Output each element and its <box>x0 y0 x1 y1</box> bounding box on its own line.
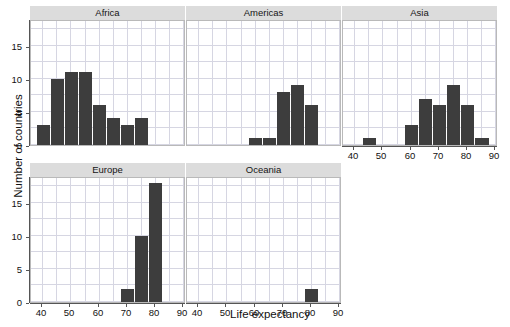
y-tick-mark <box>26 237 29 238</box>
y-tick-label: 10 <box>2 231 22 242</box>
x-axis-line <box>186 303 341 304</box>
histogram-bar <box>263 138 276 145</box>
x-tick-label: 90 <box>328 307 348 318</box>
y-tick-label: 15 <box>2 41 22 52</box>
histogram-bar <box>37 125 50 145</box>
histogram-bar <box>305 105 318 145</box>
y-axis-line <box>29 177 30 303</box>
y-tick-mark <box>26 80 29 81</box>
x-tick-label: 70 <box>428 150 448 161</box>
gridline-horizontal <box>187 61 340 62</box>
y-tick-mark <box>26 270 29 271</box>
gridline-horizontal <box>31 45 184 46</box>
x-axis-line <box>342 146 497 147</box>
y-tick-mark <box>26 47 29 48</box>
facet-strip-label-africa: Africa <box>30 6 185 20</box>
histogram-bar <box>249 138 262 145</box>
x-tick-label: 60 <box>400 150 420 161</box>
histogram-bar <box>461 105 474 145</box>
gridline-horizontal <box>343 45 496 46</box>
histogram-bar <box>107 118 120 145</box>
gridline-horizontal <box>187 45 340 46</box>
x-tick-label: 80 <box>144 307 164 318</box>
gridline-horizontal <box>31 28 184 29</box>
histogram-bar <box>79 72 92 145</box>
gridline-horizontal <box>187 185 340 186</box>
histogram-bar <box>135 236 148 302</box>
gridline-horizontal <box>31 61 184 62</box>
gridline-horizontal <box>187 202 340 203</box>
gridline-horizontal <box>343 78 496 79</box>
x-tick-label: 50 <box>371 150 391 161</box>
histogram-bar <box>447 85 460 145</box>
x-tick-label: 80 <box>456 150 476 161</box>
plot-area-oceania <box>186 177 341 303</box>
histogram-bar <box>51 79 64 145</box>
histogram-bar <box>475 138 488 145</box>
x-tick-label: 40 <box>343 150 363 161</box>
y-tick-label: 15 <box>2 198 22 209</box>
histogram-bar <box>419 99 432 145</box>
histogram-bar <box>93 105 106 145</box>
y-tick-label: 10 <box>2 74 22 85</box>
plot-area-africa <box>30 20 185 146</box>
gridline-horizontal <box>187 284 340 285</box>
facet-strip-label-europe: Europe <box>30 163 185 177</box>
x-tick-label: 60 <box>244 307 264 318</box>
plot-area-europe <box>30 177 185 303</box>
gridline-horizontal <box>343 28 496 29</box>
facet-strip-label-americas: Americas <box>186 6 341 20</box>
gridline-horizontal <box>187 94 340 95</box>
y-tick-label: 0 <box>2 140 22 151</box>
plot-area-asia <box>342 20 497 146</box>
histogram-bar <box>277 92 290 145</box>
histogram-bar <box>149 183 162 302</box>
histogram-bar <box>405 125 418 145</box>
facet-panel-europe: Europe405060708090 <box>30 163 185 319</box>
histogram-bar <box>363 138 376 145</box>
y-tick-mark <box>26 303 29 304</box>
gridline-horizontal <box>343 94 496 95</box>
y-tick-mark <box>26 113 29 114</box>
y-tick-label: 5 <box>2 264 22 275</box>
gridline-horizontal <box>343 61 496 62</box>
x-tick-label: 70 <box>116 307 136 318</box>
histogram-bar <box>135 118 148 145</box>
facet-strip-label-oceania: Oceania <box>186 163 341 177</box>
x-tick-label: 80 <box>300 307 320 318</box>
facet-panel-oceania: Oceania405060708090 <box>186 163 341 319</box>
x-tick-label: 50 <box>59 307 79 318</box>
y-axis-line <box>29 20 30 146</box>
histogram-bar <box>65 72 78 145</box>
gridline-horizontal <box>187 235 340 236</box>
plot-area-americas <box>186 20 341 146</box>
facet-panel-africa: Africa <box>30 6 185 162</box>
y-tick-mark <box>26 146 29 147</box>
x-tick-label: 40 <box>187 307 207 318</box>
facet-panel-asia: Asia405060708090 <box>342 6 497 162</box>
histogram-bar <box>291 85 304 145</box>
x-axis-line <box>30 303 185 304</box>
facet-panel-americas: Americas <box>186 6 341 162</box>
gridline-horizontal <box>187 218 340 219</box>
gridline-horizontal <box>187 251 340 252</box>
histogram-bar <box>305 289 318 302</box>
faceted-histogram-figure: Number of countries Life expectancy Afri… <box>0 0 510 327</box>
gridline-horizontal <box>187 268 340 269</box>
y-tick-label: 0 <box>2 297 22 308</box>
histogram-bar <box>121 125 134 145</box>
gridline-horizontal <box>187 28 340 29</box>
x-tick-label: 60 <box>88 307 108 318</box>
y-tick-label: 5 <box>2 107 22 118</box>
facet-strip-label-asia: Asia <box>342 6 497 20</box>
histogram-bar <box>433 105 446 145</box>
x-tick-label: 70 <box>272 307 292 318</box>
y-tick-mark <box>26 204 29 205</box>
gridline-horizontal <box>187 78 340 79</box>
x-tick-label: 50 <box>215 307 235 318</box>
x-tick-label: 90 <box>484 150 504 161</box>
x-tick-label: 40 <box>31 307 51 318</box>
histogram-bar <box>121 289 134 302</box>
